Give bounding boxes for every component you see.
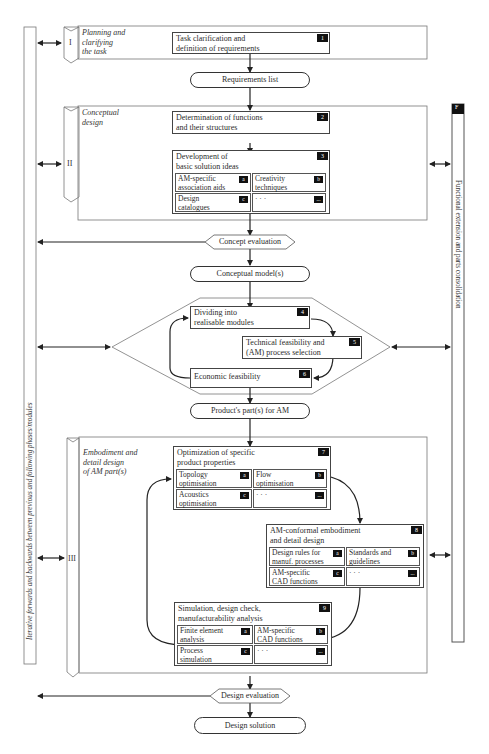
sub-topology-optimisation[interactable]: Topology optimisation a	[176, 469, 252, 488]
step-badge: 5	[349, 338, 360, 346]
phase-i-title-line: Planning and	[82, 28, 125, 38]
step-7-optimization[interactable]: Optimization of specific product propert…	[173, 446, 331, 510]
step-8-am-conformal-design[interactable]: AM-conformal embodiment and detail desig…	[266, 524, 424, 588]
sub-text: analysis	[180, 635, 250, 644]
iterative-label: Iterative forwards and backwards between…	[26, 402, 34, 640]
sub-am-cad-functions[interactable]: AM-specific CAD functions c	[269, 567, 345, 586]
sub-text: optimisation	[256, 479, 324, 488]
sub-text: · · ·	[256, 490, 324, 499]
sub-design-catalogues[interactable]: Design catalogues c	[175, 193, 251, 212]
sub-creativity-techniques[interactable]: Creativity techniques b	[252, 173, 326, 192]
sub-text: optimisation	[179, 499, 249, 508]
step-3-solution-ideas[interactable]: Development of basic solution ideas 3 AM…	[172, 150, 330, 214]
sub-finite-element-analysis[interactable]: Finite element analysis a	[177, 625, 253, 644]
step-badge: 2	[317, 113, 328, 121]
step-badge: 9	[319, 604, 330, 612]
sub-more[interactable]: · · · ...	[253, 489, 327, 508]
sub-text: Design	[178, 194, 248, 203]
sub-standards-guidelines[interactable]: Standards and guidelines b	[346, 547, 420, 566]
sub-acoustics-optimisation[interactable]: Acoustics optimisation c	[176, 489, 252, 508]
sub-text: optimisation	[179, 479, 249, 488]
conceptual-models[interactable]: Conceptual model(s)	[190, 266, 310, 282]
sub-badge: b	[408, 550, 417, 557]
step-badge: 7	[318, 448, 329, 456]
sub-badge: c	[240, 492, 249, 499]
step-5-technical-feasibility[interactable]: Technical feasibility and (AM) process s…	[242, 336, 362, 359]
step-text: and detail design	[270, 536, 420, 546]
step-text: Dividing into	[194, 308, 306, 318]
step-text: Optimization of specific	[177, 448, 327, 458]
step-4-dividing-modules[interactable]: Dividing into realisable modules 4	[190, 306, 310, 329]
sub-text: association aids	[178, 183, 248, 192]
sub-more[interactable]: · · · ...	[254, 645, 328, 664]
sub-text: · · ·	[349, 568, 417, 577]
phase-iii-numeral: III	[68, 554, 76, 563]
sub-text: Topology	[179, 470, 249, 479]
step-badge: 1	[317, 34, 328, 42]
phase-ii-numeral: II	[67, 159, 72, 168]
sub-text: Design rules for	[272, 548, 342, 557]
sub-am-association-aids[interactable]: AM-specific association aids a	[175, 173, 251, 192]
sub-text: Creativity	[255, 174, 323, 183]
sub-text: Acoustics	[179, 490, 249, 499]
step-text: definition of requirements	[176, 44, 326, 54]
right-bar-badge: F	[455, 104, 458, 110]
phase-i-numeral: I	[69, 38, 72, 47]
functional-extension-label: Functional extension and parts consolida…	[454, 180, 462, 309]
step-9-simulation-check[interactable]: Simulation, design check, manufacturabil…	[174, 602, 332, 666]
sub-text: CAD functions	[257, 635, 325, 644]
step-text: AM-conformal embodiment	[270, 526, 420, 536]
phase-i-title-line: the task	[82, 47, 125, 57]
sub-text: Finite element	[180, 626, 250, 635]
phase-iii-title-line: of AM part(s)	[83, 467, 137, 477]
phase-i-title-line: clarifying	[82, 38, 125, 48]
sub-more[interactable]: · · · ...	[346, 567, 420, 586]
sub-badge: c	[333, 570, 342, 577]
sub-design-rules[interactable]: Design rules for manuf. processes a	[269, 547, 345, 566]
sub-badge: c	[241, 648, 250, 655]
sub-badge: ...	[314, 196, 323, 203]
step-6-economic-feasibility[interactable]: Economic feasibility 6	[190, 368, 312, 388]
step-text: Technical feasibility and	[246, 338, 358, 348]
sub-flow-optimisation[interactable]: Flow optimisation b	[253, 469, 327, 488]
phase-iii-title-line: Embodiment and	[83, 448, 137, 458]
sub-badge: a	[241, 628, 250, 635]
design-solution[interactable]: Design solution	[194, 717, 306, 734]
step-text: Development of	[176, 152, 326, 162]
design-evaluation[interactable]: Design evaluation	[214, 690, 286, 702]
requirements-list[interactable]: Requirements list	[190, 72, 310, 88]
step-text: realisable modules	[194, 318, 306, 328]
step-badge: 4	[297, 308, 308, 316]
sub-text: techniques	[255, 183, 323, 192]
sub-text: guidelines	[349, 557, 417, 566]
step-text: Determination of functions	[176, 113, 326, 123]
sub-text: AM-specific	[178, 174, 248, 183]
sub-badge: ...	[315, 492, 324, 499]
sub-text: catalogues	[178, 203, 248, 212]
sub-text: Standards and	[349, 548, 417, 557]
phase-ii-title-line: Conceptual	[82, 108, 119, 118]
sub-text: · · ·	[255, 194, 323, 203]
concept-evaluation[interactable]: Concept evaluation	[210, 236, 290, 248]
step-text: product properties	[177, 458, 327, 468]
step-text: (AM) process selection	[246, 348, 358, 358]
step-text: Task clarification and	[176, 34, 326, 44]
sub-text: AM-specific	[272, 568, 342, 577]
products-parts-for-am[interactable]: Product's part(s) for AM	[190, 403, 310, 419]
phase-ii-title: Conceptual design	[82, 108, 119, 127]
phase-i-title: Planning and clarifying the task	[82, 28, 125, 57]
step-2-functions[interactable]: Determination of functions and their str…	[172, 111, 330, 134]
sub-text: Process	[180, 646, 250, 655]
sub-more[interactable]: · · · ...	[252, 193, 326, 212]
sub-text: · · ·	[257, 646, 325, 655]
sub-badge: a	[239, 176, 248, 183]
sub-text: AM-specific	[257, 626, 325, 635]
sub-am-cad-functions[interactable]: AM-specific CAD functions b	[254, 625, 328, 644]
sub-badge: c	[239, 196, 248, 203]
sub-process-simulation[interactable]: Process simulation c	[177, 645, 253, 664]
sub-text: Flow	[256, 470, 324, 479]
step-text: basic solution ideas	[176, 162, 326, 172]
phase-ii-title-line: design	[82, 118, 119, 128]
sub-badge: a	[240, 472, 249, 479]
step-1-task-clarification[interactable]: Task clarification and definition of req…	[172, 32, 330, 54]
